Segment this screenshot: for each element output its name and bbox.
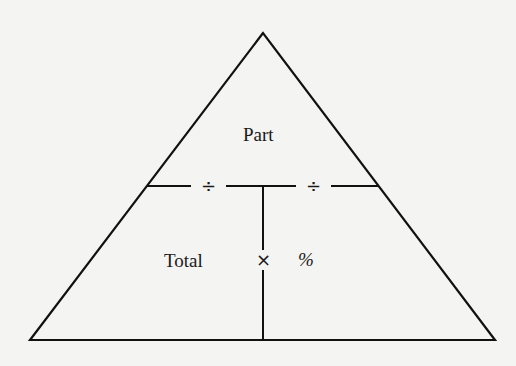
multiply-icon: × xyxy=(256,251,271,269)
percent-label: % xyxy=(298,250,314,269)
divide-icon-right: ÷ xyxy=(306,177,321,195)
percent-triangle-diagram: Part Total % ÷ ÷ × xyxy=(0,0,516,366)
triangle-graphic xyxy=(0,0,516,366)
part-label: Part xyxy=(243,125,274,144)
divide-icon-left: ÷ xyxy=(201,177,216,195)
total-label: Total xyxy=(164,251,203,270)
